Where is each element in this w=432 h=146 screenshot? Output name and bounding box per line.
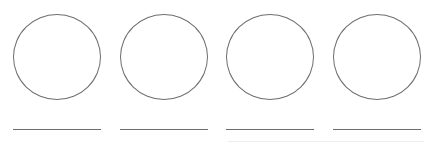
circle-shape <box>226 14 314 100</box>
circle-shape <box>120 14 208 100</box>
item-1 <box>13 0 103 146</box>
item-3 <box>226 0 316 146</box>
item-2 <box>120 0 210 146</box>
answer-line[interactable] <box>120 129 208 130</box>
item-4 <box>333 0 423 146</box>
answer-line[interactable] <box>333 129 421 130</box>
circle-shape <box>333 14 421 100</box>
answer-line[interactable] <box>226 129 314 130</box>
answer-line[interactable] <box>13 129 101 130</box>
circle-shape <box>13 14 101 100</box>
faint-divider <box>228 141 424 142</box>
